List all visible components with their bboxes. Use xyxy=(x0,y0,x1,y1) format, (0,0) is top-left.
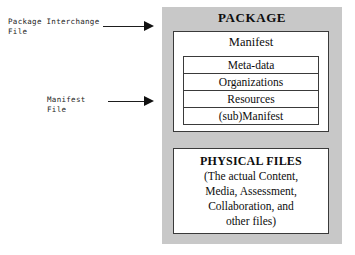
physical-files-title: PHYSICAL FILES xyxy=(174,154,328,169)
manifest-file-arrow-line xyxy=(108,101,146,102)
physical-files-line-3: Collaboration, and xyxy=(174,199,328,214)
manifest-file-label: Manifest File xyxy=(47,95,107,115)
physical-files-line-1: (The actual Content, xyxy=(174,169,328,184)
package-interchange-file-arrow-line xyxy=(103,26,146,27)
physical-files-box: PHYSICAL FILES (The actual Content, Medi… xyxy=(173,148,329,234)
manifest-rows-list: Meta-data Organizations Resources (sub)M… xyxy=(183,56,319,125)
manifest-row-meta-data: Meta-data xyxy=(184,57,318,74)
manifest-file-arrowhead-icon xyxy=(144,96,154,106)
manifest-row-sub-manifest: (sub)Manifest xyxy=(184,108,318,125)
manifest-row-resources: Resources xyxy=(184,91,318,108)
diagram-canvas: Package Interchange File Manifest File P… xyxy=(0,0,355,255)
physical-files-line-4: other files) xyxy=(174,214,328,229)
manifest-box: Manifest Meta-data Organizations Resourc… xyxy=(173,31,329,132)
manifest-title: Manifest xyxy=(174,35,328,50)
package-interchange-file-arrowhead-icon xyxy=(144,21,154,31)
manifest-row-organizations: Organizations xyxy=(184,74,318,91)
physical-files-line-2: Media, Assessment, xyxy=(174,184,328,199)
package-panel: PACKAGE Manifest Meta-data Organizations… xyxy=(162,7,342,244)
package-title: PACKAGE xyxy=(162,10,342,26)
package-interchange-file-label: Package Interchange File xyxy=(8,17,103,37)
